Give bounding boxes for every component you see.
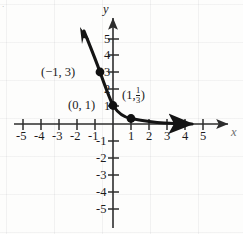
x-axis-label: x (231, 126, 237, 139)
x-axis-group (14, 119, 228, 130)
y-tick-label-4: 4 (104, 49, 110, 62)
point-label-0-1: (0, 1) (68, 99, 95, 112)
y-tick-label--4: -4 (96, 186, 106, 199)
y-tick-label-2: 2 (104, 83, 110, 96)
y-tick-label-3: 3 (104, 66, 110, 79)
x-tick-label-2: 2 (146, 130, 152, 143)
x-tick-label-4: 4 (182, 130, 188, 143)
y-tick-label--1: -1 (96, 135, 106, 148)
point-label-neg1-3: (−1, 3) (41, 66, 75, 79)
point-label-1-onethird-close: ) (141, 88, 145, 102)
point-1-onethird (127, 114, 136, 123)
exponential-curve-group (80, 27, 192, 124)
y-tick-label--3: -3 (96, 169, 106, 182)
y-axis-label: y (103, 3, 109, 16)
y-tick-label--5: -5 (96, 203, 106, 216)
x-tick-label-1: 1 (128, 130, 134, 143)
x-tick-label--3: -3 (52, 130, 62, 143)
plot-canvas (0, 0, 243, 234)
y-tick-label-5: 5 (104, 33, 110, 46)
fraction-numerator: 1 (136, 86, 140, 95)
exponential-function-graph-figure: · (0, 0, 243, 234)
point-label-1-onethird-open: (1, (122, 88, 136, 102)
x-tick-label-3: 3 (164, 130, 170, 143)
y-tick-label-1: 1 (104, 100, 110, 113)
exponential-curve (84, 31, 192, 124)
x-tick-label--5: -5 (16, 130, 26, 143)
fraction-denominator: 3 (136, 95, 140, 105)
x-tick-label--4: -4 (34, 130, 44, 143)
x-tick-label--2: -2 (70, 130, 80, 143)
one-third-fraction: 13 (136, 86, 140, 104)
point-label-1-onethird: (1,13) (122, 86, 145, 104)
y-tick-label--2: -2 (96, 152, 106, 165)
x-tick-label-5: 5 (200, 130, 206, 143)
